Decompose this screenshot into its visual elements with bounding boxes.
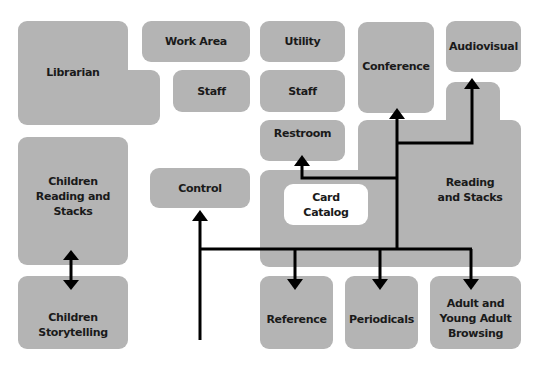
arrow-down-reference-icon [287,279,303,290]
arrow-down-periodicals-icon [372,279,388,290]
restroom-line [302,165,397,178]
arrow-up-children-icon [63,250,79,260]
arrow-up-audiovisual-icon [464,78,480,89]
arrow-down-adult-browsing-icon [463,279,479,290]
arrow-down-children-icon [63,280,79,290]
circulation-arrows [0,0,539,366]
arrow-up-restroom-icon [294,155,310,166]
arrow-up-conference-icon [389,108,405,119]
arrow-up-control-icon [192,210,208,221]
audiovisual-line [397,88,472,143]
